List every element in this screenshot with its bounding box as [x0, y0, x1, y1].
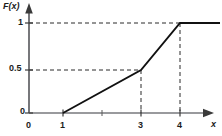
x-tick-label-3: 3	[138, 121, 143, 130]
x-tick-label-0: 0	[26, 121, 31, 130]
x-tick-label-4: 4	[177, 121, 182, 130]
cdf-figure: F(x) x 1 0.5 0 0 1 3 4	[0, 0, 222, 136]
x-tick-label-1: 1	[60, 121, 65, 130]
y-tick-label-0point5: 0.5	[9, 64, 22, 73]
y-tick-label-1: 1	[18, 18, 23, 27]
plot-canvas	[0, 0, 222, 136]
y-tick-label-0: 0	[20, 107, 25, 116]
x-axis-arrowhead	[203, 109, 214, 117]
x-axis-label: x	[211, 120, 216, 129]
y-axis-label: F(x)	[3, 2, 20, 11]
y-axis-arrowhead	[25, 3, 33, 14]
